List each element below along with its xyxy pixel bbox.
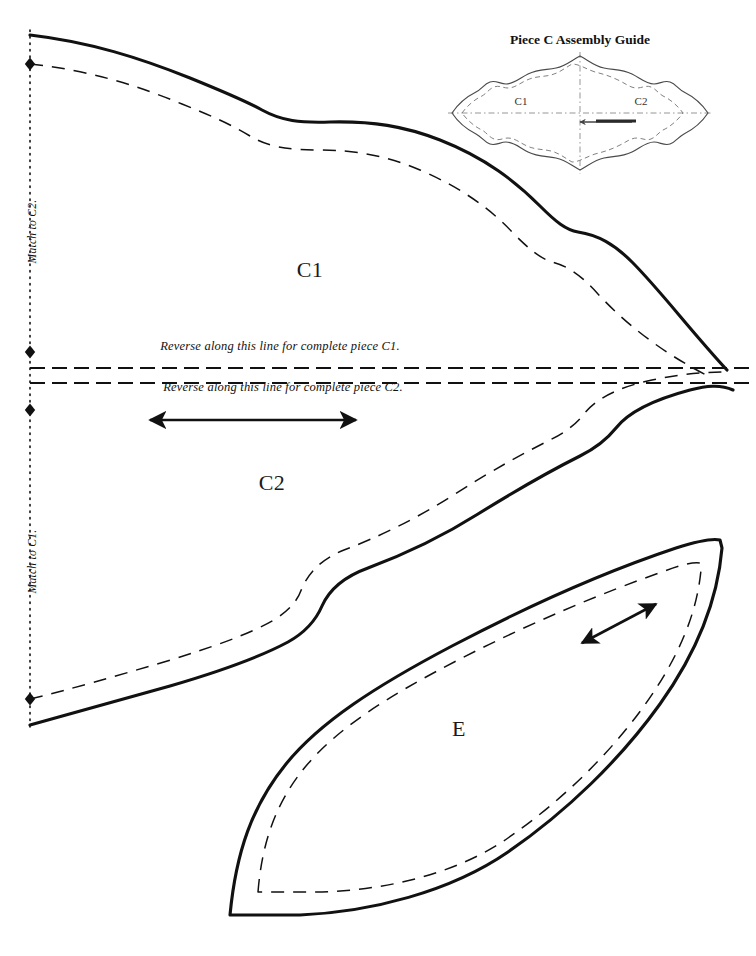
- grain-arrow-e: [582, 604, 656, 643]
- match-note-c2: Match to C2.: [27, 200, 39, 264]
- notch-diamond-bottom: [25, 693, 35, 706]
- piece-c1-cutting-line: [30, 35, 727, 370]
- piece-c1-label: C1: [297, 259, 324, 281]
- notch-diamond-c2-top: [25, 404, 35, 417]
- reverse-note-c1: Reverse along this line for complete pie…: [160, 340, 400, 353]
- match-note-c1: Match to C1.: [27, 530, 39, 594]
- piece-c2-label: C2: [259, 472, 286, 494]
- pattern-sheet: C1 C2 E Reverse along this line for comp…: [0, 0, 756, 956]
- reverse-note-c2: Reverse along this line for complete pie…: [163, 381, 403, 394]
- piece-e-label: E: [452, 718, 466, 740]
- notch-diamond-top: [25, 58, 35, 71]
- pattern-drawing: [0, 0, 756, 956]
- piece-c1-seam-line: [30, 64, 712, 378]
- piece-e-cutting-line: [230, 539, 722, 915]
- assembly-guide-label-c1: C1: [515, 96, 528, 107]
- notch-diamond-c1-bottom: [25, 346, 35, 359]
- assembly-guide-label-c2: C2: [635, 96, 648, 107]
- piece-c2-cutting-line: [30, 386, 733, 725]
- assembly-guide-thumbnail: [448, 52, 712, 174]
- assembly-guide-title: Piece C Assembly Guide: [510, 33, 650, 47]
